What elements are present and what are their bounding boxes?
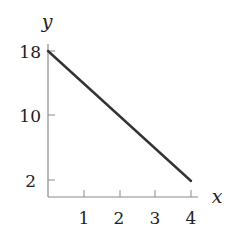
y-tick-label-2: 2	[25, 171, 36, 191]
y-axis-label: y	[41, 10, 53, 32]
x-axis-label: x	[212, 185, 223, 207]
x-tick-label-3: 3	[150, 208, 161, 228]
line-chart: 18 10 2 1 2 3 4 y x	[0, 0, 242, 241]
data-line	[48, 51, 191, 181]
y-tick-label-18: 18	[19, 42, 41, 62]
y-tick-label-10: 10	[19, 106, 41, 126]
x-tick-label-2: 2	[114, 208, 125, 228]
x-tick-label-4: 4	[186, 208, 197, 228]
x-tick-label-1: 1	[79, 208, 90, 228]
